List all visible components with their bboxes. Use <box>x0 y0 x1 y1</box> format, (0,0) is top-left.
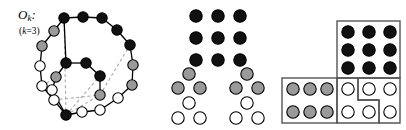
stack-row <box>190 54 246 66</box>
tiling-panel <box>280 0 406 130</box>
stack-node-white <box>194 112 206 124</box>
stack-row <box>190 10 246 22</box>
tiling-node-gray <box>287 83 299 95</box>
stack-node-gray <box>183 68 195 80</box>
stack-node-black <box>190 32 202 44</box>
graph-node-black <box>61 58 71 68</box>
graph-node-gray <box>37 41 47 51</box>
odd-graph-label-colon: : <box>31 7 35 22</box>
tiling-node-black <box>342 44 354 56</box>
odd-graph-label: Ok: <box>18 7 36 23</box>
graph-node-white <box>47 85 57 95</box>
stack-row <box>172 112 264 124</box>
tiling-node-gray <box>321 83 333 95</box>
tiling-cells <box>287 26 396 118</box>
stack-row <box>172 82 264 94</box>
tiling-node-white <box>342 83 354 95</box>
graph-node-black <box>78 12 88 22</box>
graph-node-gray <box>128 60 138 70</box>
tiling-node-black <box>363 26 375 38</box>
graph-node-white <box>113 93 123 103</box>
graph-node-black <box>125 40 135 50</box>
tiling-node-white <box>384 83 396 95</box>
stack-node-black <box>234 32 246 44</box>
stack-node-gray <box>194 82 206 94</box>
graph-node-black <box>81 58 91 68</box>
stack-row <box>183 97 253 109</box>
tiling-node-gray <box>304 106 316 118</box>
stack-node-black <box>212 54 224 66</box>
graph-node-white <box>49 95 59 105</box>
graph-node-black <box>95 71 105 81</box>
tiling-node-black <box>363 62 375 74</box>
tiling-node-black <box>342 26 354 38</box>
graph-edge-dashed <box>100 45 130 95</box>
stack-node-white <box>172 112 184 124</box>
stack-node-white <box>183 97 195 109</box>
k-value-rest: =3) <box>26 26 39 36</box>
tiling-node-black <box>384 26 396 38</box>
graph-node-white <box>37 81 47 91</box>
stack-node-gray <box>172 82 184 94</box>
graph-node-gray <box>95 90 105 100</box>
graph-edge-dashed <box>54 95 100 100</box>
tiling-node-black <box>363 44 375 56</box>
graph-node-white <box>95 105 105 115</box>
graph-node-white <box>77 107 87 117</box>
tiling-node-gray <box>287 106 299 118</box>
stack-node-black <box>212 32 224 44</box>
stack-node-white <box>241 97 253 109</box>
stack-node-black <box>212 10 224 22</box>
graph-node-black <box>59 13 69 23</box>
stack-node-black <box>234 54 246 66</box>
odd-graph-label-o: O <box>18 7 27 22</box>
tiling-node-black <box>384 44 396 56</box>
tiling-node-white <box>363 106 375 118</box>
stack-node-gray <box>252 82 264 94</box>
stack-node-white <box>252 112 264 124</box>
graph-node-black <box>97 13 107 23</box>
stack-node-black <box>190 54 202 66</box>
ball-stack-panel <box>152 0 280 130</box>
graph-node-gray <box>127 80 137 90</box>
figure-root: Ok: (k=3) <box>0 0 406 130</box>
graph-node-gray <box>49 26 59 36</box>
stack-node-gray <box>230 82 242 94</box>
graph-node-gray <box>51 72 61 82</box>
stack-row <box>190 32 246 44</box>
tiling-node-gray <box>304 83 316 95</box>
k-value-label: (k=3) <box>19 26 40 36</box>
tiling-drawing <box>280 0 406 130</box>
tiling-node-white <box>342 106 354 118</box>
stack-node-white <box>230 112 242 124</box>
ball-stack-drawing <box>152 0 280 130</box>
graph-node-white <box>35 61 45 71</box>
stack-row <box>183 68 253 80</box>
tiling-node-white <box>384 106 396 118</box>
odd-graph-panel: Ok: (k=3) <box>0 0 152 130</box>
tiling-node-black <box>384 62 396 74</box>
graph-node-black <box>112 25 122 35</box>
tiling-boxes <box>282 21 400 123</box>
tiling-node-black <box>342 62 354 74</box>
graph-node-black <box>61 110 71 120</box>
tiling-node-gray <box>321 106 333 118</box>
graph-nodes <box>35 12 138 120</box>
stack-node-black <box>234 10 246 22</box>
stack-node-gray <box>241 68 253 80</box>
tiling-node-white <box>363 83 375 95</box>
stack-node-black <box>190 10 202 22</box>
